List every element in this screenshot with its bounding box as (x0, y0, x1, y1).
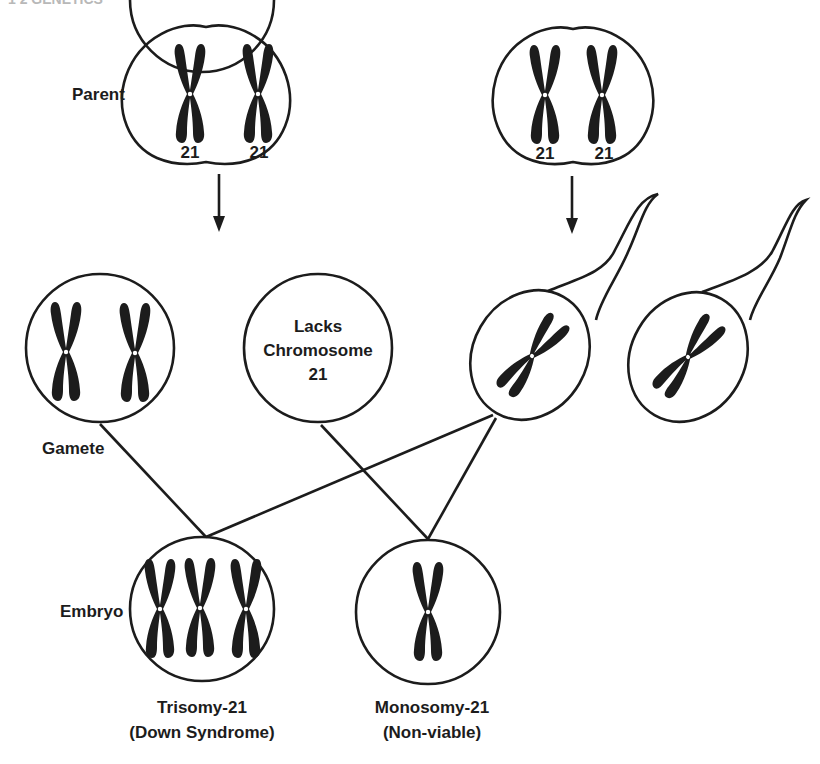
running-header: 1 2 GENETICS (8, 0, 103, 7)
chromosome-label: 21 (536, 144, 555, 163)
chromosome-21-icon (175, 44, 206, 143)
chromosome-21-icon (530, 45, 561, 144)
chromosome-21-icon (120, 303, 151, 402)
nondisjunction-diagram: 1 2 GENETICS 21 21 Parent 21 21 Gamete L… (0, 0, 820, 764)
chromosome-21-icon (243, 44, 274, 143)
lacks-label-line1: Lacks (294, 317, 342, 336)
gamete-disomic (26, 274, 174, 422)
meiosis-arrow-left (213, 174, 225, 232)
gamete-nullisomic: Lacks Chromosome 21 (244, 274, 392, 422)
monosomy-caption-line2: (Non-viable) (383, 723, 481, 742)
parent-cell-right: 21 21 (493, 27, 653, 164)
chromosome-21-icon (649, 312, 727, 401)
chromosome-21-icon (413, 562, 444, 661)
lacks-label-line3: 21 (309, 365, 328, 384)
lacks-label-line2: Chromosome (263, 341, 373, 360)
chromosome-label: 21 (250, 143, 269, 162)
trisomy-caption-line1: Trisomy-21 (157, 698, 247, 717)
gamete-label: Gamete (42, 439, 104, 458)
chromosome-21-icon (231, 559, 262, 658)
parent-label: Parent (72, 85, 125, 104)
sperm-cell-1 (447, 194, 658, 442)
chromosome-21-icon (51, 302, 82, 401)
embryo-monosomy (356, 540, 500, 684)
chromosome-21-icon (493, 311, 571, 400)
chromosome-21-icon (145, 559, 176, 658)
chromosome-21-icon (587, 45, 618, 144)
monosomy-caption-line1: Monosomy-21 (375, 698, 489, 717)
embryo-label: Embryo (60, 602, 123, 621)
chromosome-label: 21 (181, 143, 200, 162)
chromosome-label: 21 (595, 144, 614, 163)
trisomy-caption-line2: (Down Syndrome) (129, 723, 274, 742)
meiosis-arrow-right (566, 176, 578, 234)
chromosome-21-icon (185, 558, 216, 657)
fertilization-lines (100, 415, 496, 539)
